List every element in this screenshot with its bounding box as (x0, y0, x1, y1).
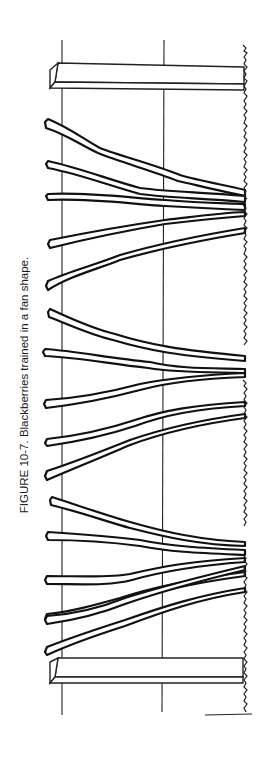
cane (45, 119, 245, 196)
fan-trellis-diagram (0, 0, 275, 760)
plant-3-canes (45, 497, 245, 655)
cane (48, 212, 245, 248)
cane (44, 373, 245, 408)
post-bottom (50, 658, 243, 683)
cane (45, 414, 245, 480)
plant-1-canes (45, 119, 245, 290)
post-top (50, 63, 244, 90)
plant-2-canes (43, 309, 245, 480)
